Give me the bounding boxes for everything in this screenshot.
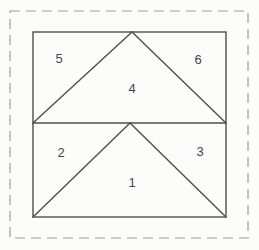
quilt-block-diagram: 123456: [0, 0, 259, 250]
pattern-page: 123456: [0, 0, 259, 250]
top-goose-right-seam: [132, 32, 226, 123]
piece-label-4: 4: [128, 81, 135, 96]
piece-label-5: 5: [55, 51, 62, 66]
piece-label-2: 2: [57, 145, 64, 160]
top-goose-left-seam: [33, 32, 132, 123]
piece-label-3: 3: [196, 144, 203, 159]
bottom-goose-left-seam: [33, 123, 130, 217]
piece-label-1: 1: [128, 175, 135, 190]
bottom-goose-right-seam: [130, 123, 226, 217]
piece-label-6: 6: [194, 52, 201, 67]
